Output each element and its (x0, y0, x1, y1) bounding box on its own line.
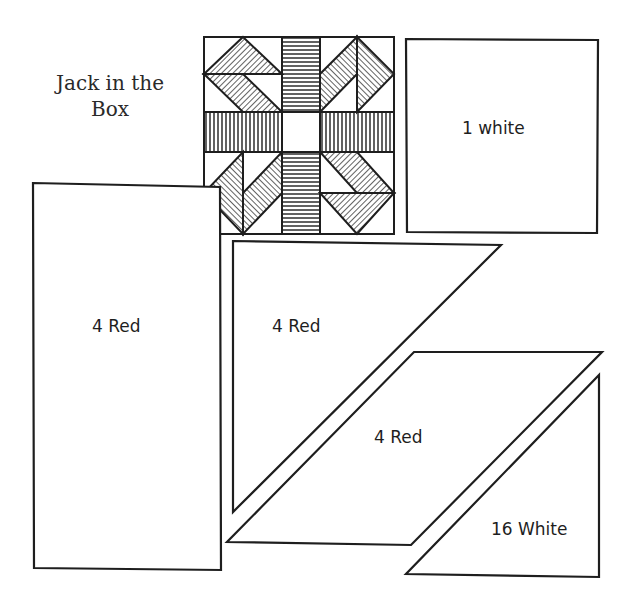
piece-strip (33, 183, 221, 570)
strip-top (282, 37, 320, 112)
label-large-triangle: 4 Red (272, 316, 321, 336)
center-white (282, 112, 320, 152)
strip-left (204, 112, 282, 152)
title-line-1: Jack in the (40, 70, 180, 96)
title-line-2: Box (40, 96, 180, 122)
quilt-block (204, 37, 394, 234)
strip-bottom (282, 152, 320, 234)
label-parallelogram: 4 Red (374, 427, 423, 447)
label-center-square: 1 white (462, 118, 525, 138)
pattern-title: Jack in the Box (40, 70, 180, 122)
strip-right (320, 112, 394, 152)
label-small-triangle: 16 White (491, 519, 567, 539)
label-strip: 4 Red (92, 316, 141, 336)
